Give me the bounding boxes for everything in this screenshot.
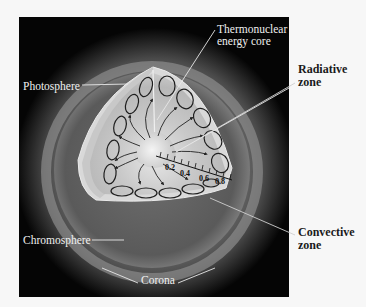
sun-diagram-panel: 0.2 0.4 0.6 0.8 — [19, 17, 289, 297]
label-radiative-zone: Radiative zone — [298, 63, 347, 89]
label-photosphere: Photosphere — [23, 80, 80, 92]
sun-cutaway-illustration: 0.2 0.4 0.6 0.8 — [19, 17, 289, 297]
label-core-line2: energy core — [217, 35, 287, 47]
label-thermonuclear-core: Thermonuclear energy core — [217, 23, 287, 47]
label-chromosphere: Chromosphere — [23, 234, 91, 246]
label-core-line1: Thermonuclear — [217, 23, 287, 35]
scale-label-0-6: 0.6 — [199, 174, 209, 183]
label-convective-zone: Convective zone — [298, 226, 355, 252]
scale-label-0-2: 0.2 — [165, 163, 175, 172]
scale-label-0-4: 0.4 — [180, 169, 190, 178]
scale-label-0-8: 0.8 — [215, 177, 225, 186]
label-radiative-line2: zone — [298, 76, 347, 89]
label-corona: Corona — [141, 274, 175, 286]
label-convective-line2: zone — [298, 239, 355, 252]
